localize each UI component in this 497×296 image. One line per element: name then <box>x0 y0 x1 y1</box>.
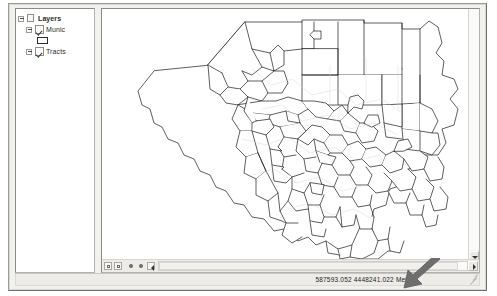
tree-item-label-layers: Layers <box>38 14 61 23</box>
map-document-icon <box>27 14 36 23</box>
scroll-right-button[interactable] <box>468 261 478 271</box>
dot-icon <box>129 264 133 268</box>
checkbox-icon-tracts[interactable] <box>35 47 44 56</box>
dot-icon-button[interactable] <box>127 262 135 270</box>
tree-item-label-munic: Munic <box>46 25 65 34</box>
status-bar: 587593.052 4448241.022 Meters <box>15 273 480 286</box>
dot-small-icon-button[interactable] <box>137 262 145 270</box>
legend-symbol-row-munic[interactable] <box>16 35 94 46</box>
allegheny-county-municipalities-map <box>102 9 470 261</box>
vertical-scrollbar-track[interactable] <box>469 9 479 250</box>
tree-item-munic[interactable]: Munic <box>16 24 94 35</box>
map-vertical-scrollbar[interactable] <box>468 9 479 261</box>
square-icon <box>107 265 110 268</box>
expander-minus-icon[interactable] <box>26 26 34 34</box>
checkbox-icon-munic[interactable] <box>35 25 44 34</box>
map-frame[interactable] <box>101 8 480 273</box>
tree-item-tracts[interactable]: Tracts <box>16 46 94 57</box>
chevron-left-icon <box>151 265 154 271</box>
chevron-right-icon <box>473 264 476 270</box>
expander-minus-icon[interactable] <box>26 48 34 56</box>
square-filled-icon-button[interactable] <box>114 262 122 270</box>
square-icon-button[interactable] <box>104 262 112 270</box>
horizontal-scrollbar-track[interactable] <box>158 261 468 271</box>
horizontal-scrollbar-thumb[interactable] <box>159 262 458 270</box>
map-canvas[interactable] <box>102 9 479 261</box>
dot-small-icon <box>139 264 143 268</box>
coordinate-readout: 587593.052 4448241.022 Meters <box>315 275 417 284</box>
resize-grip-icon[interactable] <box>468 274 478 284</box>
expander-minus-icon[interactable] <box>18 15 26 23</box>
tree-item-label-tracts: Tracts <box>46 47 66 56</box>
polygon-swatch-icon <box>37 37 48 44</box>
scroll-left-button[interactable] <box>147 262 155 270</box>
application-window: Layers Munic Tracts <box>8 3 487 291</box>
square-filled-icon <box>117 265 120 268</box>
table-of-contents-panel[interactable]: Layers Munic Tracts <box>15 8 95 273</box>
tree-item-layers[interactable]: Layers <box>16 13 94 24</box>
map-bottom-bar[interactable] <box>102 259 479 272</box>
